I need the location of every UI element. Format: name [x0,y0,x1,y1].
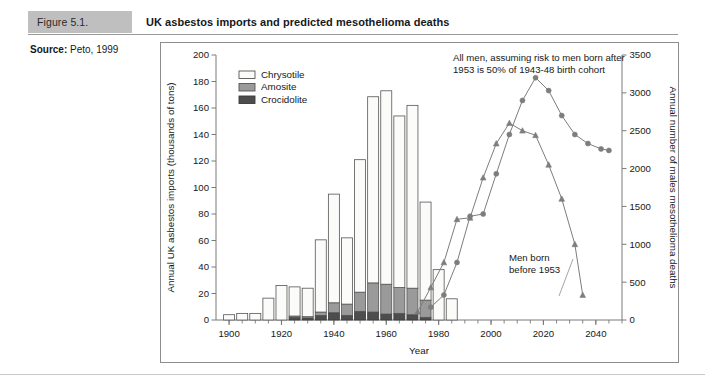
line-marker-circle [441,293,446,298]
figure-header: Figure 5.1. UK asbestos imports and pred… [28,11,678,33]
source-credit: Source: Peto, 1999 [30,44,118,55]
source-label: Source: [30,44,67,55]
bar-segment-chrysotile [328,194,339,303]
bar-segment-amosite [341,304,352,315]
x-tick-label: 1980 [428,328,449,339]
bar-segment-amosite [368,283,379,312]
bar-segment-chrysotile [394,116,405,288]
chart-frame: 19001920194019601980200020202040Year0204… [160,42,679,363]
bar-segment-chrysotile [446,299,457,320]
bar-stack [355,160,366,320]
y-tick-label-right: 1000 [630,239,651,250]
y-tick-label-right: 3500 [630,49,651,60]
line-marker-circle [481,212,486,217]
bar-segment-amosite [394,288,405,314]
line-marker-circle [507,132,512,137]
bar-segment-chrysotile [341,238,352,304]
bar-stack [315,240,326,320]
legend-swatch-chrysotile [239,71,255,79]
x-tick-label: 1900 [218,328,239,339]
x-tick-label: 1920 [271,328,292,339]
figure-title-box: UK asbestos imports and predicted mesoth… [132,11,678,33]
line-marker-circle [559,113,564,118]
bar-segment-crocidolite [328,313,339,320]
legend-label-chrysotile: Chrysotile [261,69,305,80]
bar-segment-crocidolite [355,311,366,320]
bar-segment-amosite [355,292,366,311]
line-marker-circle [520,98,525,103]
bar-stack [276,286,287,320]
line-marker-circle [606,148,611,153]
bar-segment-amosite [328,303,339,313]
x-tick-label: 1940 [323,328,344,339]
y-axis-title-left: Annual UK asbestos imports (thousands of… [165,82,176,292]
figure-number-label: Figure 5.1. [37,16,88,28]
bar-segment-chrysotile [302,288,313,316]
bar-stack [368,97,379,320]
x-tick-label: 2040 [585,328,606,339]
bar-segment-chrysotile [250,313,261,320]
bar-segment-crocidolite [381,314,392,320]
y-tick-label-left: 180 [193,76,209,87]
bar-stack [420,202,431,320]
bar-segment-chrysotile [224,315,235,320]
bars-group [224,91,458,320]
y-tick-label-left: 120 [193,155,209,166]
x-axis-title: Year [409,345,430,356]
line-marker-triangle [480,175,486,180]
bar-stack [237,313,248,320]
bar-segment-amosite [381,284,392,314]
bar-segment-crocidolite [407,315,418,320]
bar-segment-chrysotile [368,97,379,283]
bar-stack [302,288,313,320]
legend-swatch-crocidolite [239,96,255,104]
line-marker-circle [546,88,551,93]
line-marker-circle [599,146,604,151]
bar-segment-crocidolite [394,313,405,320]
line-marker-triangle [441,259,447,264]
y-tick-label-right: 2000 [630,163,651,174]
bar-stack [381,91,392,320]
y-tick-label-left: 20 [198,288,209,299]
line-marker-triangle [580,292,586,297]
legend-label-amosite: Amosite [261,81,297,92]
all-men-annotation-line2: 1953 is 50% of 1943-48 birth cohort [453,64,605,75]
all-men-annotation-line1: All men, assuming risk to men born after [453,52,625,63]
y-tick-label-right: 1500 [630,201,651,212]
y-tick-label-right: 3000 [630,87,651,98]
x-tick-label: 2020 [533,328,554,339]
bar-segment-chrysotile [407,105,418,288]
bar-stack [224,315,235,320]
line-marker-triangle [572,241,578,246]
line-marker-circle [585,141,590,146]
chart-svg: 19001920194019601980200020202040Year0204… [161,43,678,362]
bar-stack [263,298,274,320]
bar-segment-chrysotile [289,287,300,316]
legend: ChrysotileAmositeCrocidolite [239,69,308,105]
bar-segment-chrysotile [237,313,248,320]
bar-segment-chrysotile [263,298,274,320]
men-born-before-annotation-line1: Men born [509,252,550,263]
header-divider [28,34,678,35]
footer-divider [0,374,705,375]
bar-stack [407,105,418,320]
bar-stack [341,238,352,320]
line-marker-circle [454,260,459,265]
y-tick-label-left: 200 [193,49,209,60]
line-marker-circle [572,132,577,137]
bar-segment-chrysotile [381,91,392,284]
bar-segment-amosite [315,312,326,315]
men-born-before-annotation-line2: before 1953 [509,264,560,275]
line-marker-triangle [559,196,565,201]
bar-segment-chrysotile [315,240,326,312]
y-tick-label-left: 100 [193,182,209,193]
figure-title-label: UK asbestos imports and predicted mesoth… [146,16,449,28]
y-tick-label-left: 0 [204,314,209,325]
bar-segment-crocidolite [315,315,326,320]
y-tick-label-right: 0 [630,314,635,325]
y-tick-label-left: 80 [198,208,209,219]
bar-stack [328,194,339,320]
source-value: Peto, 1999 [67,44,118,55]
bar-segment-crocidolite [368,312,379,320]
y-tick-label-right: 2500 [630,125,651,136]
